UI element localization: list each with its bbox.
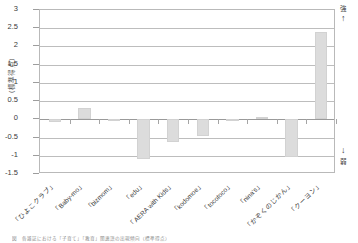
bar	[137, 119, 149, 159]
plot-area	[39, 9, 335, 173]
gridline	[40, 65, 334, 66]
x-tick-mark	[336, 119, 337, 124]
bar	[315, 32, 327, 119]
gridline	[40, 28, 334, 29]
bar	[256, 117, 268, 120]
y-tick-label: 3	[0, 5, 18, 13]
y-tick-label: 0	[0, 114, 18, 122]
x-tick-mark	[306, 119, 307, 124]
x-tick-mark	[70, 119, 71, 124]
chart-figure: （標準得点） 32.521.510.50-0.5-1-1.5 「ひよこクラブ」「…	[0, 0, 358, 243]
weak-annotation-label: 弱	[340, 158, 347, 165]
x-tick-mark	[188, 119, 189, 124]
y-tick-mark	[33, 173, 39, 174]
bar	[285, 119, 297, 156]
y-tick-label: 1	[0, 78, 18, 86]
x-tick-mark	[158, 119, 159, 124]
y-tick-label: -0.5	[0, 133, 18, 141]
x-tick-mark	[99, 119, 100, 124]
y-tick-label: 2.5	[0, 23, 18, 31]
bar	[108, 119, 120, 121]
gridline	[40, 101, 334, 102]
y-tick-label: -1	[0, 151, 18, 159]
gridline	[40, 83, 334, 84]
bar	[226, 119, 238, 121]
x-tick-mark	[218, 119, 219, 124]
strong-annotation-label: 強	[340, 5, 347, 12]
up-arrow-icon: ↑	[341, 14, 346, 23]
figure-caption: 図 各雑誌における「子育て」「教育」関連語の出現傾向（標準得点）	[12, 236, 342, 242]
x-tick-mark	[129, 119, 130, 124]
down-arrow-icon: ↓	[341, 146, 346, 155]
bar	[49, 119, 61, 122]
bar	[78, 108, 90, 119]
y-tick-label: 2	[0, 41, 18, 49]
bar	[167, 119, 179, 142]
x-tick-mark	[277, 119, 278, 124]
gridline	[40, 46, 334, 47]
y-tick-label: 1.5	[0, 60, 18, 68]
y-tick-label: -1.5	[0, 169, 18, 177]
y-tick-label: 0.5	[0, 96, 18, 104]
x-tick-mark	[247, 119, 248, 124]
bar	[197, 119, 209, 135]
